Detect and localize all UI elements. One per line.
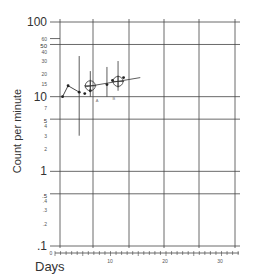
x-tick-label: 0 bbox=[50, 250, 53, 256]
x-tick-label: 20 bbox=[162, 258, 168, 264]
annotation-label: A bbox=[96, 98, 99, 103]
y-tick-label: 1 bbox=[40, 164, 47, 178]
x-tick-label: 30 bbox=[217, 258, 223, 264]
data-point bbox=[67, 84, 70, 87]
data-point bbox=[106, 83, 109, 86]
y-tick-label: 100 bbox=[27, 15, 47, 29]
y-minor-tick-label: 3 bbox=[44, 133, 47, 139]
y-minor-tick-label: 15 bbox=[41, 81, 47, 87]
y-minor-tick-label: 7 bbox=[44, 105, 47, 111]
y-tick-label: 10 bbox=[34, 90, 48, 104]
x-axis-label: Days bbox=[35, 259, 65, 274]
data-line bbox=[63, 86, 80, 97]
x-tick-label: 10 bbox=[107, 258, 113, 264]
y-minor-tick-label: 40 bbox=[41, 49, 47, 55]
y-minor-tick-label: .4 bbox=[43, 198, 47, 204]
y-minor-tick-label: .2 bbox=[43, 221, 47, 227]
y-minor-tick-label: .3 bbox=[43, 207, 47, 213]
y-tick-label: .1 bbox=[37, 239, 47, 253]
data-point bbox=[83, 92, 86, 95]
data-point bbox=[61, 95, 64, 98]
y-minor-tick-label: 2 bbox=[44, 146, 47, 152]
data-point bbox=[78, 91, 81, 94]
y-minor-tick-label: 4 bbox=[44, 123, 47, 129]
y-minor-tick-label: 30 bbox=[41, 58, 47, 64]
y-minor-tick-label: 20 bbox=[41, 71, 47, 77]
y-minor-tick-label: 60 bbox=[41, 36, 47, 42]
annotation-label: B bbox=[113, 96, 116, 101]
log-scale-chart: 100501051.5.160403020157432.4.3.20102030… bbox=[0, 0, 254, 277]
y-axis-label: Count per minute bbox=[11, 76, 23, 186]
